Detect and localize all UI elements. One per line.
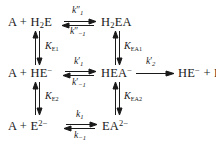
equilibrium-constant-right-lower: KEA2 <box>124 91 142 102</box>
equilibrium-arrow-mid <box>63 69 96 78</box>
rate-constant-product-step: k′2 <box>146 57 155 67</box>
equilibrium-arrow-bottom <box>64 122 97 131</box>
equilibrium-constant-right-upper: KEA1 <box>124 41 142 52</box>
rate-constant-mid-forward: k′1 <box>74 57 83 67</box>
species-top-right: H2EA <box>101 16 132 29</box>
rate-constant-bottom-reverse: k−1 <box>74 131 86 141</box>
rate-constant-top-reverse: k″−1 <box>70 27 86 37</box>
equilibrium-arrow-left-lower <box>33 82 42 115</box>
equilibrium-arrow-right-upper <box>113 31 122 65</box>
species-bottom-right: EA2− <box>102 119 129 133</box>
species-bottom-left: A + E2− <box>8 119 48 133</box>
irreversible-arrow-product <box>136 70 174 77</box>
species-mid-left: A + HE− <box>8 66 53 80</box>
equilibrium-constant-left-lower: KE2 <box>45 91 59 102</box>
equilibrium-arrow-right-lower <box>113 82 122 115</box>
species-top-left: A + H2E <box>8 16 52 29</box>
rate-constant-bottom-forward: k1 <box>76 110 84 120</box>
species-product: HE− + P <box>178 66 216 80</box>
species-mid-right: HEA− <box>101 66 132 80</box>
equilibrium-constant-left-upper: KE1 <box>45 41 59 52</box>
rate-constant-mid-reverse: k′−1 <box>72 78 86 88</box>
reaction-scheme-diagram: A + H2E k″1 k″−1 H2EA KE1 <box>0 0 216 146</box>
equilibrium-arrow-left-upper <box>33 31 42 65</box>
rate-constant-top-forward: k″1 <box>72 6 83 16</box>
